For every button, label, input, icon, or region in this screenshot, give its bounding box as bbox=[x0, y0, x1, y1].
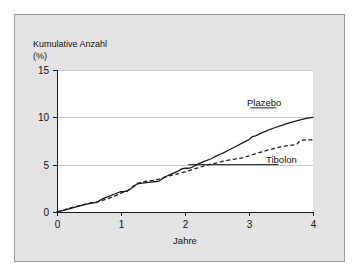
line-chart: 051015 01234 Kumulative Anzahl (%) Jahre… bbox=[0, 0, 359, 276]
x-tick-label-4: 4 bbox=[311, 219, 317, 230]
series-label-plazebo: Plazebo bbox=[247, 97, 281, 108]
x-tick-label-0: 0 bbox=[55, 219, 61, 230]
y-axis-title-line1: Kumulative Anzahl bbox=[33, 39, 107, 49]
series-label-tibolon: Tibolon bbox=[266, 154, 297, 165]
y-tick-label-10: 10 bbox=[38, 112, 50, 123]
y-axis-ticks bbox=[53, 71, 57, 213]
y-tick-label-0: 0 bbox=[43, 207, 49, 218]
y-axis-title-line2: (%) bbox=[33, 51, 47, 61]
y-tick-label-5: 5 bbox=[43, 160, 49, 171]
x-axis-title: Jahre bbox=[173, 235, 197, 246]
y-axis-tick-labels: 051015 bbox=[38, 65, 50, 218]
figure-root: 051015 01234 Kumulative Anzahl (%) Jahre… bbox=[0, 0, 359, 276]
y-tick-label-15: 15 bbox=[38, 65, 50, 76]
x-tick-label-2: 2 bbox=[183, 219, 189, 230]
x-tick-label-3: 3 bbox=[247, 219, 253, 230]
x-axis-tick-labels: 01234 bbox=[55, 219, 317, 230]
plot-area-background bbox=[57, 70, 313, 212]
x-tick-label-1: 1 bbox=[119, 219, 125, 230]
